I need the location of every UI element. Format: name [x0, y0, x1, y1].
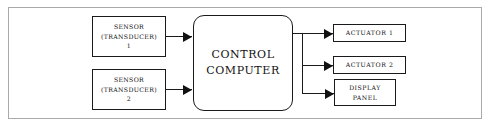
- sensor-1-label-line2: (TRANSDUCER): [101, 32, 157, 42]
- actuator-1-block: ACTUATOR 1: [333, 24, 406, 42]
- sensor-1-label-line3: 1: [127, 41, 131, 51]
- actuator-2-label: ACTUATOR 2: [346, 60, 394, 70]
- diagram-canvas: SENSOR (TRANSDUCER) 1 SENSOR (TRANSDUCER…: [0, 0, 493, 128]
- sensor-2-label-line1: SENSOR: [114, 75, 144, 85]
- control-computer-label-line2: COMPUTER: [206, 63, 280, 79]
- sensor-2-label-line2: (TRANSDUCER): [101, 85, 157, 95]
- sensor-2-to-controller-arrowhead: [183, 85, 192, 95]
- outer-frame: SENSOR (TRANSDUCER) 1 SENSOR (TRANSDUCER…: [8, 7, 482, 119]
- controller-output-stub: [293, 33, 302, 34]
- display-panel-block: DISPLAY PANEL: [334, 79, 396, 106]
- sensor-1-to-controller-arrowhead: [183, 32, 192, 42]
- sensor-1-label-line1: SENSOR: [114, 22, 144, 32]
- controller-to-actuator-1-arrowhead: [324, 29, 333, 39]
- display-panel-label-line1: DISPLAY: [349, 83, 381, 93]
- actuator-1-label: ACTUATOR 1: [346, 28, 394, 38]
- control-computer-block: CONTROL COMPUTER: [193, 15, 293, 111]
- sensor-2-block: SENSOR (TRANSDUCER) 2: [92, 69, 166, 110]
- controller-to-display-panel-arrowhead: [325, 89, 334, 99]
- control-computer-label-line1: CONTROL: [211, 47, 274, 63]
- controller-to-actuator-2-arrowhead: [324, 61, 333, 71]
- sensor-1-block: SENSOR (TRANSDUCER) 1: [92, 16, 166, 57]
- actuator-2-block: ACTUATOR 2: [333, 56, 406, 74]
- controller-output-bus: [302, 33, 303, 93]
- sensor-2-label-line3: 2: [127, 94, 131, 104]
- display-panel-label-line2: PANEL: [353, 93, 378, 103]
